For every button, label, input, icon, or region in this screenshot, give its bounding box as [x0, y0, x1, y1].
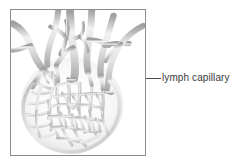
label-lymph-capillary: lymph capillary	[162, 71, 230, 85]
lymph-capillary-illustration	[11, 10, 145, 155]
figure-frame	[10, 9, 146, 156]
leader-line-lymph-capillary	[146, 78, 161, 79]
figure-page: lymph capillary	[0, 0, 235, 164]
